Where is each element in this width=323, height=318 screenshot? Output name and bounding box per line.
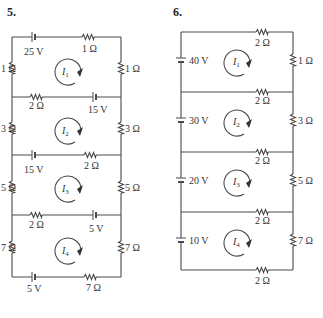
battery-label: 15 V (24, 164, 44, 175)
loop-current-i1: I1 (55, 59, 83, 85)
resistor-icon (256, 90, 268, 95)
resistor-label: 2 Ω (255, 95, 270, 106)
resistor-label: 1 Ω (1, 63, 16, 74)
resistor-icon (291, 54, 296, 66)
resistor-label: 3 Ω (298, 115, 313, 126)
svg-text:I4: I4 (61, 245, 69, 258)
loop-current-i2: I2 (55, 118, 83, 144)
resistor-label: 2 Ω (255, 37, 270, 48)
svg-text:I4: I4 (232, 236, 240, 249)
resistor-label: 2 Ω (255, 215, 270, 226)
resistor-icon (119, 62, 124, 74)
resistor-icon (119, 181, 124, 193)
svg-text:I2: I2 (61, 125, 69, 138)
circuit-diagrams: 5. (0, 0, 323, 318)
resistor-icon (30, 213, 42, 218)
battery-label: 20 V (189, 175, 209, 186)
resistor-label: 2 Ω (255, 155, 270, 166)
resistor-icon (84, 153, 96, 158)
resistor-icon (256, 30, 268, 35)
resistor-icon (256, 268, 268, 273)
resistor-icon (291, 234, 296, 246)
resistor-label: 1 Ω (82, 43, 97, 54)
svg-text:I2: I2 (232, 116, 240, 129)
loop-current-i2: I2 (224, 110, 252, 136)
resistor-label: 7 Ω (86, 282, 101, 293)
resistor-label: 3 Ω (125, 123, 140, 134)
resistor-icon (119, 122, 124, 134)
problem-6-number: 6. (173, 5, 182, 19)
resistor-label: 5 Ω (298, 175, 313, 186)
battery-label: 25 V (24, 46, 44, 57)
resistor-icon (256, 210, 268, 215)
resistor-icon (30, 95, 42, 100)
resistor-label: 5 Ω (125, 182, 140, 193)
problem-5-number: 5. (7, 5, 16, 19)
battery-label: 40 V (189, 55, 209, 66)
resistor-label: 2 Ω (255, 275, 270, 286)
resistor-label: 3 Ω (1, 123, 16, 134)
resistor-label: 2 Ω (29, 100, 44, 111)
resistor-label: 7 Ω (1, 242, 16, 253)
battery-label: 5 V (27, 283, 42, 294)
loop-current-i3: I3 (224, 170, 252, 196)
svg-text:I3: I3 (61, 183, 69, 196)
resistor-icon (291, 174, 296, 186)
resistor-icon (84, 275, 96, 280)
resistor-label: 7 Ω (125, 242, 140, 253)
resistor-icon (82, 35, 94, 40)
svg-text:I3: I3 (232, 176, 240, 189)
resistor-label: 2 Ω (84, 160, 99, 171)
battery-label: 30 V (189, 115, 209, 126)
battery-label: 5 V (89, 223, 104, 234)
resistor-label: 1 Ω (298, 55, 313, 66)
loop-current-i4: I4 (55, 238, 83, 264)
resistor-icon (291, 114, 296, 126)
loop-current-i3: I3 (55, 176, 83, 202)
circuit-6: 40 V 2 Ω 1 Ω 30 V 2 Ω 3 Ω 20 V 2 Ω 5 Ω 1… (176, 30, 313, 287)
svg-text:I1: I1 (61, 66, 69, 79)
battery-label: 15 V (88, 104, 108, 115)
resistor-label: 1 Ω (125, 63, 140, 74)
battery-label: 10 V (189, 235, 209, 246)
resistor-label: 5 Ω (1, 182, 16, 193)
loop-current-i4: I4 (224, 230, 252, 256)
resistor-icon (119, 241, 124, 253)
resistor-label: 2 Ω (29, 219, 44, 230)
circuit-5: 25 V 1 Ω 1 Ω 1 Ω 2 Ω 15 V 3 Ω 3 Ω 15 V 2… (1, 32, 140, 294)
loop-current-i1: I1 (224, 50, 252, 76)
resistor-icon (256, 150, 268, 155)
svg-text:I1: I1 (232, 56, 240, 69)
resistor-label: 7 Ω (298, 235, 313, 246)
